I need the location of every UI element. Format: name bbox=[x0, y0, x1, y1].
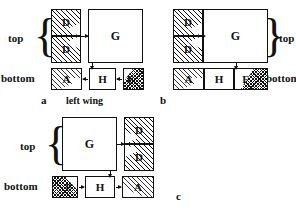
panel-c-label-bottom: bottom bbox=[4, 181, 38, 192]
panel-b: D D G { top bottom A H F b bbox=[148, 0, 296, 105]
box-D-upper-b[interactable]: D bbox=[173, 9, 203, 36]
box-A-c[interactable]: A bbox=[122, 176, 154, 198]
box-F-c-label: F bbox=[65, 182, 72, 193]
box-H-a[interactable]: H bbox=[89, 68, 116, 90]
box-H-c-label: H bbox=[96, 182, 105, 193]
box-D-upper-a-label: D bbox=[62, 17, 70, 28]
arrow-F-to-H-c bbox=[79, 187, 84, 188]
box-D-lower-b[interactable]: D bbox=[173, 36, 203, 63]
panel-a-top-brace: { bbox=[41, 8, 49, 64]
box-G-a-label: G bbox=[111, 30, 120, 42]
box-A-a-label: A bbox=[63, 74, 71, 85]
box-G-c-label: G bbox=[85, 138, 94, 150]
arrow-D-to-G-a bbox=[81, 36, 88, 37]
box-H-b-label: H bbox=[215, 74, 224, 85]
box-D-lower-c[interactable]: D bbox=[124, 144, 154, 171]
box-D-upper-c[interactable]: D bbox=[124, 117, 154, 144]
box-A-b-label: A bbox=[185, 74, 193, 85]
box-F-c[interactable]: F bbox=[52, 176, 78, 198]
box-F-a[interactable]: F bbox=[123, 68, 144, 90]
box-F-a-label: F bbox=[127, 74, 134, 85]
box-G-b[interactable]: G bbox=[203, 9, 268, 63]
panel-c-label-top: top bbox=[20, 141, 35, 152]
box-A-c-label: A bbox=[134, 182, 142, 193]
box-H-c[interactable]: H bbox=[85, 176, 115, 198]
box-D-lower-b-label: D bbox=[184, 44, 192, 55]
arrow-H-to-A-c bbox=[116, 187, 121, 188]
box-D-upper-b-label: D bbox=[184, 17, 192, 28]
arrow-H-to-A-a bbox=[83, 79, 88, 80]
panel-c-top-brace: { bbox=[52, 116, 60, 172]
panel-c-caption: c bbox=[176, 191, 181, 202]
box-D-lower-c-label: D bbox=[135, 152, 143, 163]
box-H-b[interactable]: H bbox=[204, 68, 234, 90]
arrow-G-to-H-b bbox=[236, 63, 237, 69]
arrow-F-to-H-a bbox=[117, 79, 122, 80]
box-H-a-label: H bbox=[98, 74, 107, 85]
panel-a-label-top: top bbox=[8, 33, 23, 44]
box-A-b[interactable]: A bbox=[173, 68, 204, 90]
arrow-G-to-H-a bbox=[92, 63, 93, 69]
box-G-c[interactable]: G bbox=[62, 117, 117, 171]
panel-b-top-brace: { bbox=[270, 8, 278, 64]
box-D-lower-a-label: D bbox=[62, 44, 70, 55]
panel-b-label-bottom: bottom bbox=[266, 73, 296, 84]
panel-a: top bottom { D D G A H F a left wing bbox=[0, 0, 148, 105]
texture-checker bbox=[235, 69, 267, 89]
box-D-upper-c-label: D bbox=[135, 125, 143, 136]
arrow-D-to-G-b bbox=[197, 36, 205, 37]
panel-a-label-bottom: bottom bbox=[1, 73, 35, 84]
box-F-b[interactable]: F bbox=[234, 68, 268, 90]
arrow-G-to-H-c bbox=[110, 171, 111, 177]
box-A-a[interactable]: A bbox=[51, 68, 82, 90]
box-G-b-label: G bbox=[231, 30, 240, 42]
box-F-b-label: F bbox=[242, 74, 249, 85]
box-G-a[interactable]: G bbox=[88, 9, 143, 63]
arrow-G-to-D-c bbox=[117, 144, 124, 145]
panel-c: top bottom { G D D F H A c bbox=[0, 105, 296, 210]
